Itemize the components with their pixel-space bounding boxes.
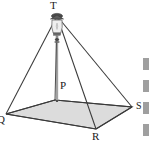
lantern-flame [56,23,58,30]
margin-text-fragment [143,124,149,136]
lateral-edge-T-S [57,16,132,107]
lateral-edge-T-Q [6,16,57,114]
vertex-label-P: P [60,80,66,91]
lantern-base [54,33,61,35]
vertex-label-R: R [92,131,99,142]
margin-text-fragment [143,80,149,92]
hanging-lantern-icon [51,15,64,43]
lantern-collar [55,41,60,43]
margin-text-fragment [143,102,149,114]
point-marker-P [56,100,58,102]
vertex-label-T: T [50,0,57,11]
vertex-label-S: S [136,101,142,111]
geometry-figure: T P R S Q [0,0,149,145]
vertex-label-Q: Q [0,114,5,125]
lantern-knob [55,38,59,41]
margin-text-fragment [143,58,149,70]
pyramid-diagram-svg [0,0,149,145]
